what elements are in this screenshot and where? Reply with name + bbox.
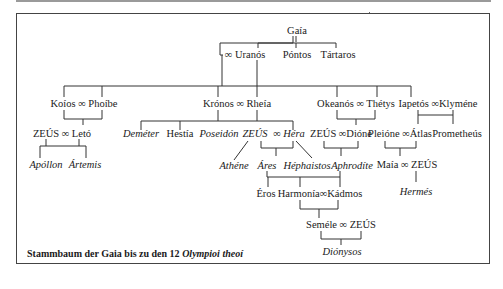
node-gaia: Gaía <box>287 25 307 37</box>
node-hermes: Hermés <box>400 186 433 198</box>
node-hera: Héra <box>283 128 305 140</box>
node-zeus-hera-zeus: ZEÚS <box>242 128 267 140</box>
caption-prefix: Stammbaum der Gaia bis zu den 12 <box>27 248 182 259</box>
node-pontos: Póntos <box>283 49 312 61</box>
node-dionysos: Diónysos <box>322 246 361 258</box>
node-zeus-leto: ZEÚS ∞ Letó <box>33 128 91 140</box>
node-eros: Éros <box>256 188 275 200</box>
node-okeanos-thetys: Okeanós ∞ Thétys <box>317 98 395 110</box>
node-hestia: Hestía <box>167 128 194 140</box>
node-tartaros: Tártaros <box>321 49 356 61</box>
node-artemis: Ártemis <box>69 159 102 171</box>
node-pleione-atlas: Pleióne ∞Átlas <box>368 128 432 140</box>
node-kronos-rheia: Krónos ∞ Rheía <box>203 98 271 110</box>
node-aphrodite: Aphrodíte <box>331 160 373 172</box>
node-harmonia-kadmos: Harmonía∞Kádmos <box>278 188 362 200</box>
node-uranos: ∞ Uranós <box>225 49 265 61</box>
node-demeter: Deméter <box>123 128 159 140</box>
connector-lines <box>0 0 503 289</box>
node-iapetos-klymene: Iapetós ∞Klyméne <box>399 98 478 110</box>
node-athene: Athéne <box>219 160 248 172</box>
node-zeus-hera-marriage: ∞ <box>273 128 281 140</box>
node-hephaistos: Héphaistos <box>283 160 330 172</box>
node-zeus-dione: ZEÚS ∞Dióne <box>310 128 372 140</box>
node-prometheus: Prometheús <box>432 128 482 140</box>
node-poseidon: Poseidón <box>199 128 238 140</box>
diagram-caption: Stammbaum der Gaia bis zu den 12 Olympio… <box>27 248 243 259</box>
node-ares: Áres <box>258 160 277 172</box>
node-maia-zeus: Maía ∞ ZEÚS <box>377 159 438 171</box>
caption-italic: Olympioi theoí <box>182 248 243 259</box>
node-semele-zeus: Seméle ∞ ZEÚS <box>306 219 376 231</box>
node-koios-phoibe: Koíos ∞ Phoíbe <box>51 98 118 110</box>
node-apollon: Apóllon <box>29 159 62 171</box>
